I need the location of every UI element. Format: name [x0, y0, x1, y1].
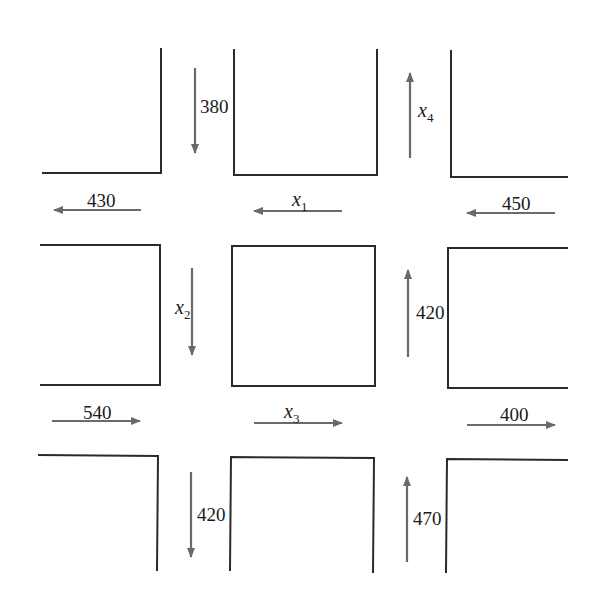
block-bottom-right — [446, 459, 568, 573]
city-blocks — [38, 48, 568, 573]
label-380: 380 — [200, 96, 229, 117]
label-540: 540 — [83, 402, 112, 423]
label-420-bottom: 420 — [197, 504, 226, 525]
label-450: 450 — [502, 193, 531, 214]
traffic-flow-diagram: 380 x4 430 x1 450 x2 420 540 x3 400 420 … — [0, 0, 592, 611]
flow-labels: 380 x4 430 x1 450 x2 420 540 x3 400 420 … — [83, 96, 531, 529]
block-middle-left — [40, 245, 160, 385]
block-bottom-middle — [230, 457, 374, 573]
block-top-middle — [234, 49, 377, 175]
block-bottom-left — [38, 455, 158, 571]
label-470: 470 — [413, 508, 442, 529]
label-400: 400 — [500, 404, 529, 425]
flow-arrows — [52, 68, 555, 562]
block-middle-right — [448, 248, 568, 388]
block-top-right — [451, 50, 568, 177]
label-x2: x2 — [174, 296, 190, 322]
block-top-left — [42, 48, 161, 173]
block-center — [232, 246, 375, 386]
label-430: 430 — [87, 190, 116, 211]
label-420-middle: 420 — [416, 302, 445, 323]
label-x4: x4 — [417, 99, 434, 125]
